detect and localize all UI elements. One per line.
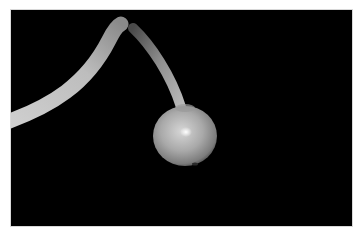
stem-right [133,28,181,107]
photo-frame: Small round fruit hanging from a curved … [11,10,352,226]
stem-left [11,24,121,122]
fruit-photo [11,10,352,226]
fruit-highlight [180,127,192,137]
